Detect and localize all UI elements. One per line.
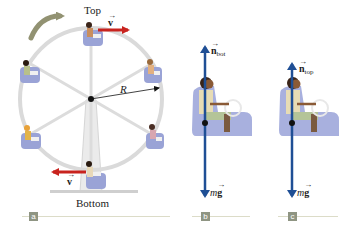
- center-dot-c: [289, 120, 295, 126]
- normal-force-label-top: →ntop: [299, 64, 314, 77]
- panel-a-rule: [22, 216, 170, 217]
- ferris-wheel-diagram: [0, 0, 354, 233]
- panel-b-tag: b: [201, 212, 210, 221]
- panel-a-tag: a: [29, 212, 38, 221]
- panel-b-rider: [192, 77, 252, 136]
- rotation-direction-arrow: [31, 16, 60, 38]
- velocity-label-bottom: →v: [67, 177, 72, 187]
- radius-label: R: [120, 83, 127, 95]
- center-dot-b: [202, 120, 208, 126]
- weight-label-b: m→g: [210, 188, 222, 198]
- seat-top: [83, 22, 103, 46]
- bottom-label: Bottom: [76, 197, 109, 209]
- panel-c-tag: c: [288, 212, 297, 221]
- panel-c-rule: [278, 216, 338, 217]
- panel-c-rider: [279, 77, 339, 136]
- normal-force-label-bottom: →nbot: [211, 46, 226, 59]
- weight-label-c: m→g: [297, 188, 309, 198]
- top-label: Top: [84, 4, 101, 16]
- velocity-label-top: →v: [108, 18, 113, 28]
